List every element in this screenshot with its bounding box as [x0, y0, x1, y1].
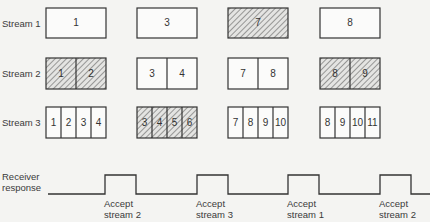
packet-number: 5	[172, 117, 178, 128]
packet-number: 8	[347, 17, 353, 28]
stream-diagram: Stream 1 Stream 2 Stream 3 1 3 7 8 1 2 3…	[0, 0, 430, 222]
receiver-label-line2: response	[2, 182, 41, 193]
packet-number: 10	[352, 117, 364, 128]
packet-number: 1	[73, 17, 79, 28]
packet-number: 3	[149, 68, 155, 79]
stream-1-label: Stream 1	[2, 18, 41, 29]
packet-number: 6	[187, 117, 193, 128]
stream-1-row: 1 3 7 8	[46, 8, 380, 38]
pulse-label-line2: stream 3	[196, 209, 233, 220]
pulse-label-line1: Accept	[287, 198, 316, 209]
packet-number: 4	[96, 117, 102, 128]
packet-number: 11	[367, 117, 378, 128]
packet-number: 8	[332, 68, 338, 79]
stream-2-label: Stream 2	[2, 68, 41, 79]
receiver-waveform	[48, 175, 430, 194]
packet-number: 3	[81, 117, 87, 128]
packet-number: 7	[255, 17, 261, 28]
packet-number: 8	[248, 117, 254, 128]
packet-number: 9	[362, 68, 368, 79]
stream-3-row: 1 2 3 4 3 4 5 6 7 8 9 10 8 9 10 11	[46, 107, 380, 138]
pulse-label-line1: Accept	[379, 198, 408, 209]
packet-number: 10	[275, 117, 287, 128]
packet-number: 9	[340, 117, 346, 128]
packet-number: 8	[270, 68, 276, 79]
packet-number: 3	[142, 117, 148, 128]
pulse-label-line2: stream 1	[287, 209, 324, 220]
packet-number: 1	[58, 68, 64, 79]
packet-number: 8	[325, 117, 331, 128]
packet-number: 1	[51, 117, 57, 128]
packet-number: 9	[263, 117, 269, 128]
packet-number: 2	[66, 117, 72, 128]
stream-2-row: 1 2 3 4 7 8 8 9	[46, 58, 380, 89]
stream-3-label: Stream 3	[2, 117, 41, 128]
packet-number: 4	[157, 117, 163, 128]
receiver-label-line1: Receiver	[2, 171, 40, 182]
packet-number: 7	[240, 68, 246, 79]
packet-number: 2	[88, 68, 94, 79]
pulse-label-line2: stream 2	[379, 209, 416, 220]
pulse-label-line2: stream 2	[104, 209, 141, 220]
packet-number: 7	[233, 117, 239, 128]
packet-number: 4	[179, 68, 185, 79]
pulse-label-line1: Accept	[104, 198, 133, 209]
packet-number: 3	[164, 17, 170, 28]
pulse-label-line1: Accept	[196, 198, 225, 209]
